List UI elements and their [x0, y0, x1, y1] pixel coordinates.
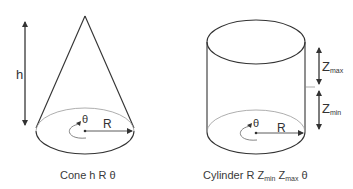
cone-caption: Cone h R θ: [60, 170, 116, 181]
cylinder-radius-label: R: [277, 122, 286, 134]
cone-angle-label: θ: [82, 114, 88, 125]
cylinder-caption: Cylinder R Zmin Zmax θ: [203, 170, 308, 182]
zmax-label-sub: max: [330, 67, 343, 74]
zmin-label-sub: min: [330, 109, 341, 116]
zmin-label-main: Z: [322, 101, 330, 116]
zmin-label: Zmin: [322, 102, 341, 116]
cone-shape: [36, 16, 134, 154]
zmax-label: Zmax: [322, 60, 343, 74]
cylinder-caption-prefix: Cylinder R: [203, 169, 257, 181]
cone-radius-label: R: [103, 118, 112, 130]
cylinder-caption-theta: θ: [298, 169, 307, 181]
cylinder-angle-label: θ: [253, 118, 259, 129]
cylinder-shape: [207, 20, 315, 154]
cylinder-caption-zmax-sub: max: [285, 175, 298, 182]
cylinder-caption-zmin-sub: min: [264, 175, 275, 182]
zmax-label-main: Z: [322, 59, 330, 74]
cone-height-label: h: [16, 68, 23, 81]
cylinder-caption-zmax: Z: [275, 169, 285, 181]
diagram-canvas: [0, 0, 353, 189]
